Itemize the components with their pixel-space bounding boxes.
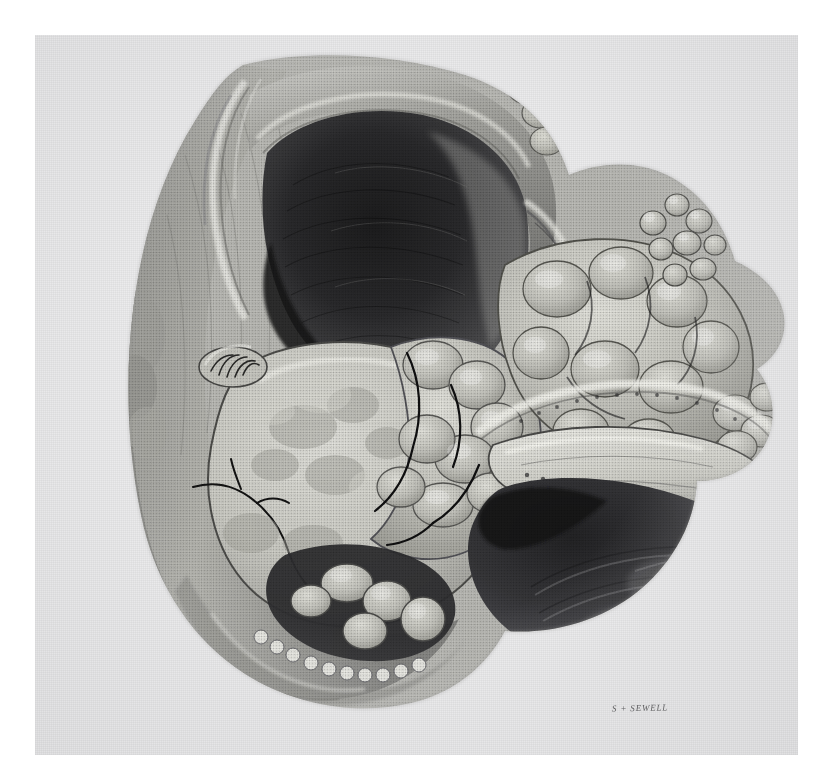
anatomical-illustration: [35, 35, 798, 755]
page-background: S + SEWELL: [0, 0, 832, 783]
plate-caption: [35, 758, 798, 780]
specimen-body: [35, 35, 798, 755]
illustration-plate: S + SEWELL: [35, 35, 798, 755]
artist-signature: S + SEWELL: [612, 702, 668, 713]
